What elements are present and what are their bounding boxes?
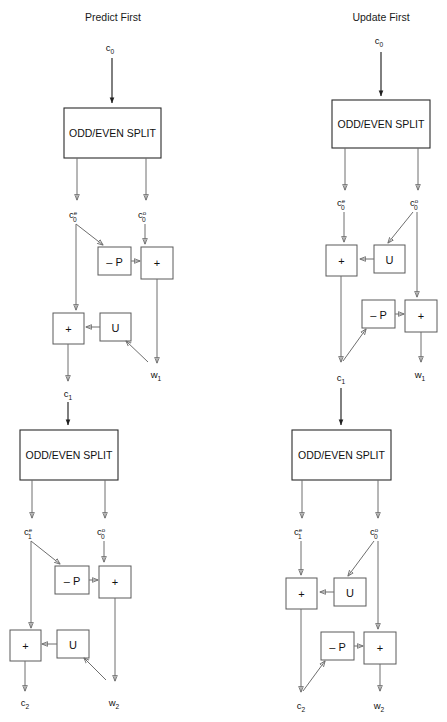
predict-operator-label: – P: [106, 256, 123, 268]
update-operator-label-2: U: [69, 639, 77, 651]
detail-output-label-r: w1: [414, 369, 426, 382]
detail-output-label-2: w2: [108, 697, 120, 710]
panel-title-update-first: Update First: [352, 11, 409, 23]
even-signal-label-r: ce0: [337, 197, 346, 211]
odd-even-split-label-2: ODD/EVEN SPLIT: [26, 449, 114, 461]
update-operator-label-r: U: [386, 254, 394, 266]
update-operator-label: U: [112, 322, 120, 334]
update-first-stage-1: c0 ODD/EVEN SPLIT ce0 co0 + U: [326, 35, 437, 385]
odd-signal-label: co0: [138, 209, 147, 223]
sum-approx-label-2: +: [22, 640, 28, 652]
wire-even2-to-predict: [31, 541, 60, 564]
predict-operator-label-2-r: – P: [329, 641, 346, 653]
update-operator-label-2-r: U: [346, 587, 354, 599]
sum-detail-label-r: +: [418, 310, 424, 322]
wire-odd2-to-update-r: [348, 541, 374, 576]
diagram-canvas: Predict First c0 ODD/EVEN SPLIT ce0 co0 …: [0, 0, 447, 722]
sum-detail-label-2: +: [112, 576, 118, 588]
sum-approx-label-r: +: [338, 255, 344, 267]
update-first-stage-2: ODD/EVEN SPLIT ce1 co0 + U – P + c2 w2: [286, 388, 396, 713]
predict-first-stage-1: c0 ODD/EVEN SPLIT ce0 co0 – P +: [53, 42, 173, 401]
wire-even-to-predict: [76, 224, 103, 245]
panel-predict-first: Predict First c0 ODD/EVEN SPLIT ce0 co0 …: [10, 11, 173, 710]
odd-even-split-label: ODD/EVEN SPLIT: [69, 127, 157, 139]
wire-detail2-to-update: [84, 658, 106, 680]
input-signal-label: c0: [106, 42, 115, 55]
input-signal-label-r: c0: [375, 35, 384, 48]
sum-approx-label: +: [65, 323, 71, 335]
sum-detail-label-2-r: +: [377, 642, 383, 654]
predict-operator-label-r: – P: [370, 309, 387, 321]
even-signal-label-2-r: ce1: [294, 526, 303, 540]
wire-approx-to-predict-r: [343, 329, 366, 361]
wire-detail-to-update: [126, 341, 148, 362]
even-signal-label-2: ce1: [24, 526, 33, 540]
approx-output-label-2: c2: [21, 697, 30, 710]
panel-title-predict-first: Predict First: [85, 11, 141, 23]
wire-odd-to-update-r: [388, 212, 413, 243]
approx-output-label: c1: [64, 388, 73, 401]
predict-first-stage-2: ODD/EVEN SPLIT ce1 co0 – P + U + c2 w2: [10, 402, 131, 710]
panel-update-first: Update First c0 ODD/EVEN SPLIT ce0 co0 +…: [286, 11, 437, 713]
odd-even-split-label-r: ODD/EVEN SPLIT: [338, 118, 426, 130]
detail-output-label-2-r: w2: [373, 700, 385, 713]
wire-approx2-to-predict-r: [303, 661, 325, 691]
odd-signal-label-r: co0: [410, 197, 419, 211]
odd-signal-label-2: co0: [97, 526, 106, 540]
lifting-scheme-diagram: Predict First c0 ODD/EVEN SPLIT ce0 co0 …: [0, 0, 447, 722]
approx-output-label-r: c1: [337, 372, 346, 385]
predict-operator-label-2: – P: [64, 575, 81, 587]
sum-detail-label: +: [154, 257, 160, 269]
even-signal-label: ce0: [69, 209, 78, 223]
detail-output-label: w1: [150, 369, 162, 382]
odd-even-split-label-2-r: ODD/EVEN SPLIT: [298, 449, 386, 461]
approx-output-label-2-r: c2: [297, 700, 306, 713]
odd-signal-label-2-r: co0: [370, 526, 379, 540]
sum-approx-label-2-r: +: [298, 588, 304, 600]
